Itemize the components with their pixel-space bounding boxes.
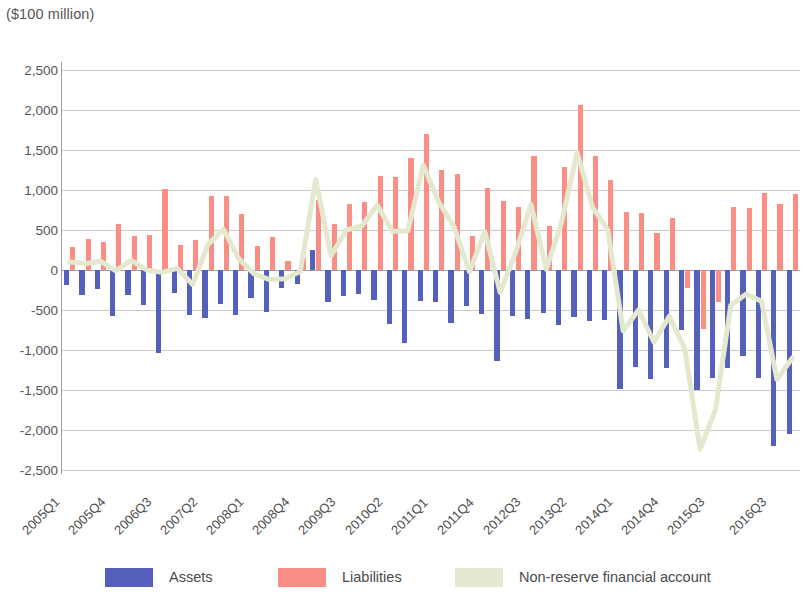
y-tick-label: -500 bbox=[2, 303, 58, 318]
x-axis-tick-labels: 2005Q12005Q42006Q32007Q22008Q12008Q42009… bbox=[62, 470, 800, 550]
bar-group bbox=[185, 70, 200, 470]
bar-group bbox=[200, 70, 215, 470]
bar-liabilities bbox=[332, 224, 337, 270]
bar-assets bbox=[371, 270, 376, 300]
bar-liabilities bbox=[393, 177, 398, 270]
bar-group bbox=[431, 70, 446, 470]
bar-assets bbox=[648, 270, 653, 379]
bar-assets bbox=[233, 270, 238, 315]
bar-assets bbox=[479, 270, 484, 314]
legend-item[interactable]: Non-reserve financial account bbox=[455, 562, 711, 592]
y-tick-label: 1,000 bbox=[2, 183, 58, 198]
bar-liabilities bbox=[485, 188, 490, 270]
bar-group bbox=[370, 70, 385, 470]
bar-assets bbox=[402, 270, 407, 343]
bar-liabilities bbox=[578, 105, 583, 270]
bar-assets bbox=[295, 270, 300, 284]
bar-assets bbox=[617, 270, 622, 389]
bar-group bbox=[247, 70, 262, 470]
bar-group bbox=[139, 70, 154, 470]
x-tick-label: 2014Q1 bbox=[572, 494, 615, 537]
bar-assets bbox=[571, 270, 576, 317]
bar-assets bbox=[787, 270, 792, 434]
units-label: ($100 million) bbox=[6, 6, 94, 22]
bar-liabilities bbox=[424, 134, 429, 270]
bar-assets bbox=[110, 270, 115, 316]
bar-assets bbox=[694, 270, 699, 390]
bar-liabilities bbox=[531, 156, 536, 270]
bar-liabilities bbox=[731, 207, 736, 270]
bar-liabilities bbox=[239, 214, 244, 270]
bar-liabilities bbox=[793, 194, 798, 270]
y-tick-label: -2,500 bbox=[2, 463, 58, 478]
bar-liabilities bbox=[209, 196, 214, 270]
bar-assets bbox=[525, 270, 530, 319]
bar-group bbox=[385, 70, 400, 470]
bar-group bbox=[723, 70, 738, 470]
bar-group bbox=[646, 70, 661, 470]
y-tick-label: 500 bbox=[2, 223, 58, 238]
legend-item[interactable]: Assets bbox=[105, 562, 213, 592]
bar-assets bbox=[494, 270, 499, 361]
legend-swatch-liabilities bbox=[278, 568, 326, 587]
bar-liabilities bbox=[685, 270, 690, 288]
bar-liabilities bbox=[270, 237, 275, 270]
bar-group bbox=[616, 70, 631, 470]
bar-liabilities bbox=[224, 196, 229, 270]
bar-group bbox=[400, 70, 415, 470]
y-tick-label: 0 bbox=[2, 263, 58, 278]
bar-group bbox=[231, 70, 246, 470]
x-tick-label: 2012Q3 bbox=[480, 494, 523, 537]
bar-liabilities bbox=[101, 242, 106, 270]
x-tick-label: 2013Q2 bbox=[526, 494, 569, 537]
bar-group bbox=[277, 70, 292, 470]
bar-assets bbox=[510, 270, 515, 316]
bar-group bbox=[769, 70, 784, 470]
bar-assets bbox=[740, 270, 745, 356]
bar-group bbox=[262, 70, 277, 470]
bar-liabilities bbox=[408, 158, 413, 270]
bar-assets bbox=[633, 270, 638, 367]
bar-assets bbox=[64, 270, 69, 285]
bar-assets bbox=[602, 270, 607, 320]
bar-liabilities bbox=[701, 270, 706, 329]
plot-area bbox=[62, 70, 800, 470]
bar-assets bbox=[679, 270, 684, 330]
bar-liabilities bbox=[470, 236, 475, 270]
y-tick-label: 1,500 bbox=[2, 143, 58, 158]
bar-assets bbox=[202, 270, 207, 318]
legend-item[interactable]: Liabilities bbox=[278, 562, 402, 592]
bar-assets bbox=[771, 270, 776, 446]
bar-assets bbox=[464, 270, 469, 306]
bar-group bbox=[154, 70, 169, 470]
legend-swatch-assets bbox=[105, 568, 153, 587]
bar-assets bbox=[356, 270, 361, 294]
bar-group bbox=[446, 70, 461, 470]
bar-liabilities bbox=[378, 176, 383, 270]
bar-assets bbox=[541, 270, 546, 313]
bar-assets bbox=[264, 270, 269, 312]
bar-liabilities bbox=[116, 224, 121, 270]
bar-group bbox=[62, 70, 77, 470]
x-tick-label: 2005Q4 bbox=[65, 494, 108, 537]
bar-liabilities bbox=[762, 193, 767, 270]
y-tick-label: -2,000 bbox=[2, 423, 58, 438]
x-tick-label: 2011Q1 bbox=[388, 495, 431, 538]
bar-liabilities bbox=[654, 233, 659, 270]
bar-assets bbox=[310, 250, 315, 270]
x-tick-label: 2016Q3 bbox=[726, 494, 769, 537]
legend-label: Non-reserve financial account bbox=[519, 569, 711, 585]
x-tick-label: 2009Q3 bbox=[296, 494, 339, 537]
bar-group bbox=[785, 70, 800, 470]
bar-group bbox=[93, 70, 108, 470]
bar-liabilities bbox=[639, 213, 644, 270]
bar-assets bbox=[279, 270, 284, 288]
bar-liabilities bbox=[501, 201, 506, 270]
x-tick-label: 2006Q3 bbox=[111, 494, 154, 537]
bar-group bbox=[308, 70, 323, 470]
bar-liabilities bbox=[439, 170, 444, 270]
bar-liabilities bbox=[593, 156, 598, 270]
x-tick-label: 2015Q3 bbox=[665, 494, 708, 537]
bar-liabilities bbox=[670, 218, 675, 270]
bar-assets bbox=[418, 270, 423, 301]
